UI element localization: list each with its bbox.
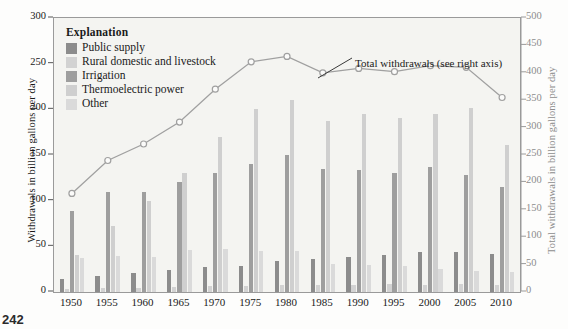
legend-swatch-icon — [66, 57, 77, 68]
legend-rows: Public supplyRural domestic and livestoc… — [66, 41, 216, 111]
legend-item: Public supply — [66, 41, 216, 55]
legend-item: Irrigation — [66, 69, 216, 83]
right-tick-150: 150 — [526, 203, 566, 214]
legend-item: Rural domestic and livestock — [66, 55, 216, 69]
left-tick-300: 300 — [12, 11, 46, 22]
left-tick-0: 0 — [12, 285, 46, 296]
line-marker — [105, 158, 111, 164]
line-marker — [177, 119, 183, 125]
line-marker — [499, 95, 505, 101]
annotation-leader-line — [316, 54, 356, 80]
x-tick-2010: 2010 — [478, 297, 524, 308]
left-axis-ticks: 050100150200250300 — [12, 0, 46, 329]
left-tick-200: 200 — [12, 102, 46, 113]
right-tick-0: 0 — [526, 285, 566, 296]
legend-item: Other — [66, 97, 216, 111]
legend-item-label: Public supply — [82, 42, 145, 54]
right-tick-500: 500 — [526, 11, 566, 22]
legend-title: Explanation — [66, 26, 216, 38]
legend-item-label: Thermoelectric power — [82, 84, 184, 96]
line-marker — [248, 59, 254, 65]
line-marker — [392, 69, 398, 75]
line-marker — [284, 53, 290, 59]
right-tick-200: 200 — [526, 175, 566, 186]
left-tick-100: 100 — [12, 194, 46, 205]
right-tick-50: 50 — [526, 258, 566, 269]
left-tick-250: 250 — [12, 57, 46, 68]
left-tick-150: 150 — [12, 148, 46, 159]
right-tick-400: 400 — [526, 66, 566, 77]
legend-swatch-icon — [66, 99, 77, 110]
right-axis-ticks: 050100150200250300350400450500 — [526, 0, 566, 329]
legend-swatch-icon — [66, 71, 77, 82]
right-tick-100: 100 — [526, 230, 566, 241]
page-number: 242 — [2, 312, 24, 327]
line-marker — [69, 190, 75, 196]
right-tick-350: 350 — [526, 93, 566, 104]
right-tick-250: 250 — [526, 148, 566, 159]
plot-area: Explanation Public supplyRural domestic … — [53, 17, 521, 293]
legend-item-label: Other — [82, 98, 108, 110]
figure-water-withdrawals: Withdrawals in billion gallons per day T… — [0, 0, 568, 329]
legend-item-label: Irrigation — [82, 70, 125, 82]
legend-swatch-icon — [66, 85, 77, 96]
legend-item-label: Rural domestic and livestock — [82, 56, 216, 68]
right-tick-300: 300 — [526, 121, 566, 132]
right-tick-450: 450 — [526, 38, 566, 49]
legend: Explanation Public supplyRural domestic … — [66, 26, 216, 111]
legend-item: Thermoelectric power — [66, 83, 216, 97]
left-tick-50: 50 — [12, 239, 46, 250]
legend-swatch-icon — [66, 43, 77, 54]
line-marker — [141, 141, 147, 147]
line-annotation-label: Total withdrawals (see right axis) — [355, 57, 502, 69]
